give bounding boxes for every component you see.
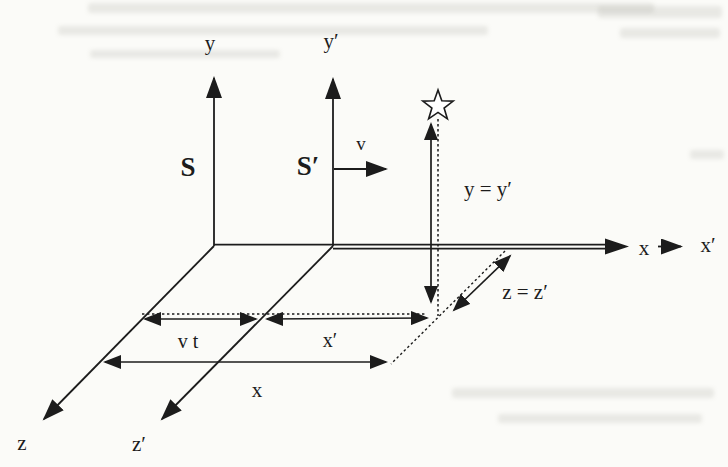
velocity-label: v [356,133,366,154]
x-prime-axis-label: x′ [700,233,715,257]
z-axis-label: z [17,431,26,455]
z-equality-label: z = z′ [502,280,548,304]
x-prime-measure-arrow [267,318,427,319]
frame-s-label: S [180,152,195,182]
x-axis-label: x [639,236,650,260]
galilean-frames-diagram: y y′ S S′ v y = y′ x x′ z = z′ v t x′ x … [0,0,728,467]
z-prime-axis-label: z′ [132,432,146,456]
x-distance-label: x [252,378,263,402]
textbook-figure-page: y y′ S S′ v y = y′ x x′ z = z′ v t x′ x … [0,0,728,467]
arrowhead-icon [605,239,629,255]
common-x-axis [214,239,629,255]
y-prime-axis-label: y′ [323,29,338,53]
star-icon [423,90,453,119]
vt-distance-label: v t [178,330,199,352]
frame-s-prime-label: S′ [297,151,320,181]
x-prime-distance-label: x′ [323,329,337,351]
y-axis-label: y [205,31,216,55]
z-projection-dashed-line [391,251,505,364]
y-equality-label: y = y′ [464,177,512,201]
